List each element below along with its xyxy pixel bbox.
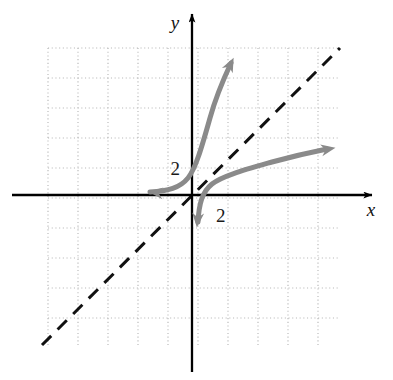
x-intercept-label-2: 2 bbox=[216, 205, 226, 226]
exponential-curve bbox=[150, 63, 231, 192]
x-axis-label: x bbox=[366, 199, 376, 220]
exponential-curve-arrowhead-upper-right bbox=[222, 55, 239, 73]
y-axis-label: y bbox=[169, 12, 180, 33]
graph-figure: x y 22 bbox=[0, 0, 393, 380]
coordinate-plane-svg: x y 22 bbox=[0, 0, 393, 380]
y-intercept-label-2: 2 bbox=[171, 158, 181, 179]
